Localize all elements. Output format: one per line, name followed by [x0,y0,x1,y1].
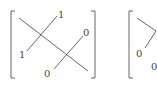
label-right-0: 0 [83,27,89,38]
left-bracket [11,11,15,78]
label-bottom-0-m2: 0 [151,61,157,72]
label-left-1: 1 [19,49,25,60]
left-bracket-2 [129,11,133,78]
right-bracket [91,11,95,78]
label-left-0-m2: 0 [136,48,142,59]
matrix-1 [11,11,95,78]
diagram-canvas: 1 1 0 0 0 0 [0,0,157,92]
long-diagonal [19,18,88,71]
chevron-line [137,18,156,48]
label-bottom-0: 0 [44,68,50,79]
upper-diagonal [27,16,57,51]
label-top-1: 1 [58,9,64,20]
